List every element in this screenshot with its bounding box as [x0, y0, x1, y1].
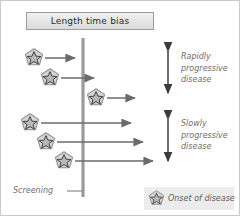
legend: Onset of disease	[144, 187, 234, 210]
slow-label-line-3: disease	[181, 141, 228, 153]
onset-star-markers	[21, 49, 104, 168]
slow-label-line-1: Slowly	[181, 118, 228, 130]
onset-star-icon	[37, 133, 54, 149]
rapid-label-line-1: Rapidly	[181, 51, 228, 63]
onset-star-icon	[25, 49, 42, 65]
onset-star-icon	[87, 89, 104, 105]
diagram-canvas	[1, 1, 240, 216]
legend-label: Onset of disease	[168, 194, 235, 203]
slow-label-line-2: progressive	[181, 130, 228, 142]
onset-star-icon	[41, 69, 58, 85]
legend-star-icon	[148, 190, 165, 207]
slow-progressive-label: Slowly progressive disease	[181, 118, 228, 153]
screening-label: Screening	[13, 186, 53, 195]
rapid-label-line-2: progressive	[181, 63, 228, 75]
rapid-label-line-3: disease	[181, 74, 228, 86]
rapid-group-arrows	[45, 58, 135, 98]
onset-star-icon	[55, 152, 72, 168]
length-time-bias-figure: Length time bias	[0, 0, 240, 216]
rapid-progressive-label: Rapidly progressive disease	[181, 51, 228, 86]
onset-star-icon	[21, 114, 38, 130]
